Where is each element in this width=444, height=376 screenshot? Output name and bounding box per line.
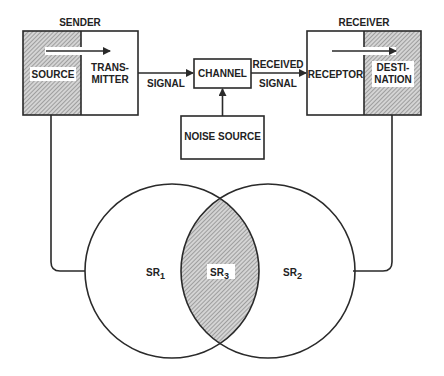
communication-diagram: SENDER SOURCE TRANS- MITTER SIGNAL CHANN…	[0, 0, 444, 376]
source-label: SOURCE	[32, 69, 75, 80]
sr2-label: SR2	[283, 267, 302, 281]
received-signal-label-line2: SIGNAL	[259, 78, 297, 89]
destination-label-line2: NATION	[374, 74, 412, 85]
receiver-title: RECEIVER	[338, 17, 390, 28]
sender-connector	[51, 115, 85, 271]
sender-title: SENDER	[59, 17, 101, 28]
channel-label: CHANNEL	[198, 68, 247, 79]
destination-label-line1: DESTI-	[377, 62, 410, 73]
noise-source-block: NOISE SOURCE	[181, 116, 264, 159]
channel-block: CHANNEL	[194, 59, 251, 88]
received-signal-label-line1: RECEIVED	[252, 59, 303, 70]
noise-source-label: NOISE SOURCE	[184, 131, 261, 142]
venn-diagram: SR1 SR3 SR2	[85, 184, 355, 358]
receiver-block: RECEIVER RECEPTOR DESTI- NATION	[307, 17, 421, 115]
receptor-label: RECEPTOR	[308, 69, 364, 80]
receiver-connector	[353, 115, 392, 271]
sr1-label: SR1	[146, 267, 165, 281]
transmitter-label-line1: TRANS-	[91, 62, 129, 73]
transmitter-region	[81, 31, 138, 115]
sender-block: SENDER SOURCE TRANS- MITTER	[23, 17, 138, 115]
transmitter-label-line2: MITTER	[91, 74, 129, 85]
signal-label: SIGNAL	[147, 78, 185, 89]
